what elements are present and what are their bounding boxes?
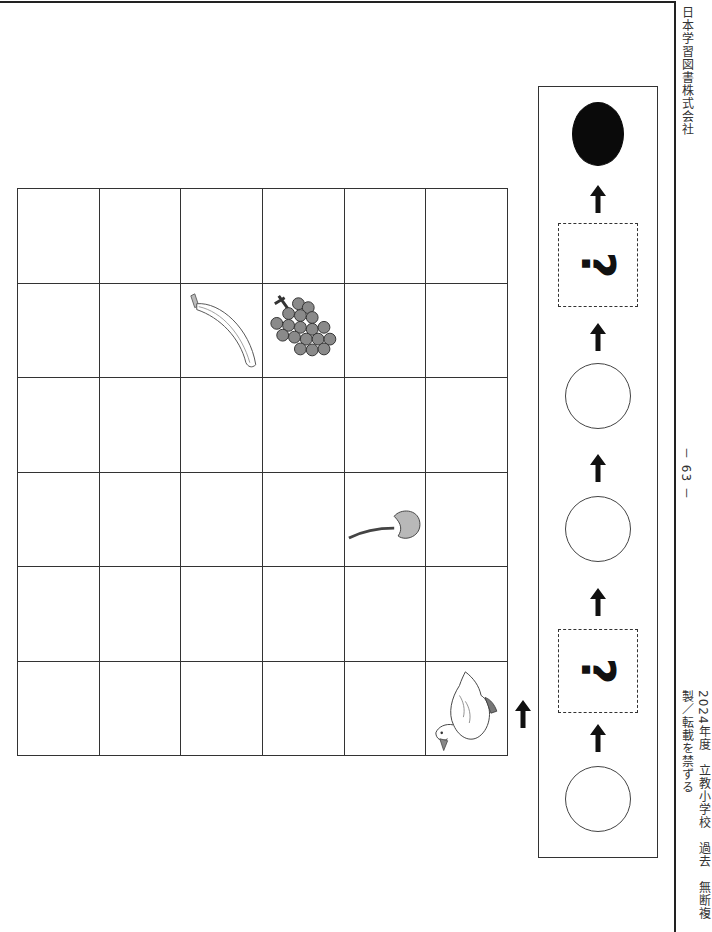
grid-cell[interactable] bbox=[180, 566, 262, 661]
up-arrow-icon bbox=[590, 323, 606, 351]
puzzle-grid bbox=[17, 188, 508, 756]
grid-cell[interactable] bbox=[262, 661, 344, 756]
grid-cell[interactable] bbox=[344, 377, 426, 472]
grid-cell[interactable] bbox=[17, 377, 99, 472]
grid-cell[interactable] bbox=[99, 377, 181, 472]
grid-cell[interactable] bbox=[425, 377, 507, 472]
grid-cell[interactable] bbox=[262, 188, 344, 283]
empty-circle bbox=[565, 496, 631, 562]
grid-cell[interactable] bbox=[180, 472, 262, 567]
grid-cell[interactable] bbox=[180, 377, 262, 472]
grid-cell[interactable] bbox=[425, 566, 507, 661]
grid-cell[interactable] bbox=[344, 283, 426, 378]
grid-cell-cherry[interactable] bbox=[344, 472, 426, 567]
grid-cell[interactable] bbox=[344, 566, 426, 661]
grid-cell[interactable] bbox=[262, 566, 344, 661]
cherry-icon bbox=[345, 473, 426, 567]
grid-cell[interactable] bbox=[262, 377, 344, 472]
grid-cell[interactable] bbox=[17, 661, 99, 756]
grid-cell-duck[interactable] bbox=[425, 661, 507, 756]
grid-cell[interactable] bbox=[99, 283, 181, 378]
grid-cell[interactable] bbox=[17, 283, 99, 378]
grid-cell[interactable] bbox=[99, 566, 181, 661]
grid-cell[interactable] bbox=[344, 188, 426, 283]
up-arrow-icon bbox=[590, 588, 606, 616]
grid-cell[interactable] bbox=[425, 283, 507, 378]
page-border-right bbox=[674, 1, 676, 932]
publisher-label: 日本学習図書株式会社 bbox=[678, 6, 695, 136]
grid-cell[interactable] bbox=[99, 472, 181, 567]
grid-cell[interactable] bbox=[17, 472, 99, 567]
empty-circle bbox=[565, 363, 631, 429]
page-number: － 63 － bbox=[678, 447, 695, 500]
up-arrow-icon bbox=[590, 185, 606, 213]
grid-cell[interactable] bbox=[99, 661, 181, 756]
grid-cell[interactable] bbox=[180, 188, 262, 283]
grid-cell[interactable] bbox=[17, 188, 99, 283]
start-up-arrow-icon bbox=[515, 700, 531, 728]
copyright-notice: 2024年度 立教小学校 過去 無断複製／転載を禁ずる bbox=[678, 690, 712, 931]
grid-cell[interactable] bbox=[262, 472, 344, 567]
grid-cell[interactable] bbox=[99, 188, 181, 283]
grid-cell[interactable] bbox=[425, 188, 507, 283]
grid-cell-grapes[interactable] bbox=[262, 283, 344, 378]
question-box[interactable]: ? bbox=[558, 629, 638, 713]
banana-icon bbox=[181, 284, 262, 378]
page-border-top bbox=[0, 1, 676, 3]
grid-cell[interactable] bbox=[425, 472, 507, 567]
grid-cell[interactable] bbox=[344, 661, 426, 756]
grid-cell[interactable] bbox=[180, 661, 262, 756]
question-mark: ? bbox=[571, 658, 625, 685]
filled-circle-goal bbox=[572, 102, 624, 166]
grid-cell-banana[interactable] bbox=[180, 283, 262, 378]
up-arrow-icon bbox=[590, 454, 606, 482]
empty-circle-start bbox=[565, 766, 631, 832]
question-box[interactable]: ? bbox=[558, 223, 638, 307]
question-mark: ? bbox=[571, 252, 625, 279]
duck-icon bbox=[426, 662, 507, 756]
grid-cell[interactable] bbox=[17, 566, 99, 661]
up-arrow-icon bbox=[590, 724, 606, 752]
grapes-icon bbox=[263, 284, 344, 378]
sequence-panel: ? ? bbox=[538, 86, 658, 858]
